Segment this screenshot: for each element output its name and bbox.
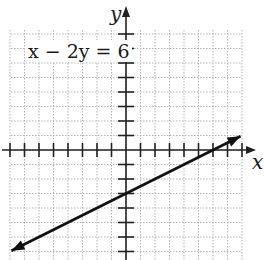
y-axis-label: y	[110, 2, 121, 26]
line-arrow-left-icon	[11, 240, 25, 250]
line-arrow-right-icon	[227, 136, 241, 146]
equation-label: x − 2y = 6	[26, 40, 132, 62]
equation-text: x − 2y = 6	[28, 40, 130, 62]
coordinate-graph: x − 2y = 6 y x	[0, 0, 264, 260]
graph-canvas	[0, 0, 264, 260]
x-axis-label: x	[252, 150, 263, 174]
y-axis-arrow-icon	[122, 6, 130, 17]
